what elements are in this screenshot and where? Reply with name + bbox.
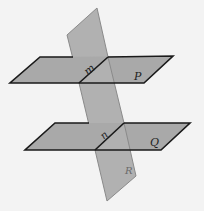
label-q: Q bbox=[150, 136, 159, 149]
planes-diagram: m P n Q R bbox=[0, 0, 204, 211]
diagram-canvas: m P n Q R bbox=[0, 0, 204, 211]
label-p: P bbox=[133, 70, 142, 83]
label-r: R bbox=[124, 165, 133, 176]
